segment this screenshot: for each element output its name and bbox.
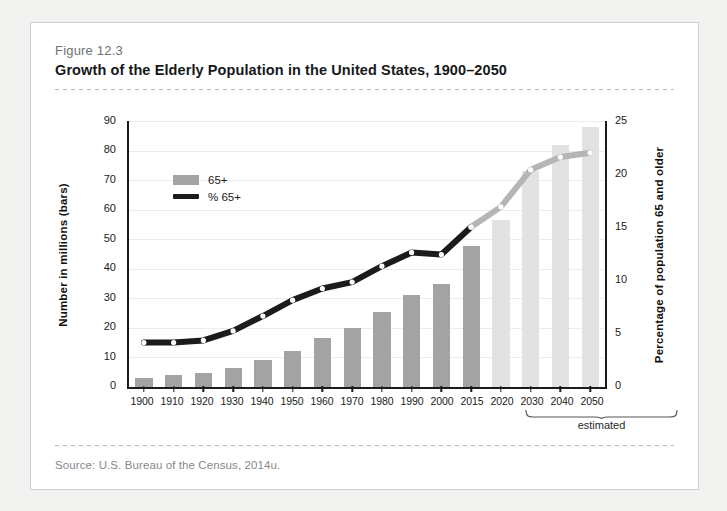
x-tick (381, 386, 382, 392)
x-axis-label: 1920 (187, 395, 217, 407)
y-tick-right: 0 (615, 379, 639, 391)
x-axis-label: 1950 (277, 395, 307, 407)
x-axis-label: 1910 (157, 395, 187, 407)
line-data-point (588, 150, 593, 155)
line-data-point (290, 298, 295, 303)
line-data-point (231, 328, 236, 333)
x-tick (203, 386, 204, 392)
y-tick-right: 15 (615, 220, 639, 232)
legend-line-icon (173, 194, 199, 199)
legend-label-line: % 65+ (208, 191, 241, 203)
x-tick (143, 386, 144, 392)
x-axis-label: 1980 (367, 395, 397, 407)
y-tick-left: 70 (92, 173, 116, 185)
line-data-point (469, 224, 474, 229)
line-series (129, 121, 605, 386)
x-axis-labels: 1900191019201930194019501960197019801990… (127, 395, 607, 407)
y-tick-left: 80 (92, 143, 116, 155)
x-tick (351, 386, 352, 392)
line-segment (144, 227, 471, 343)
line-data-point (201, 338, 206, 343)
x-tick (292, 386, 293, 392)
y-tick-left: 90 (92, 114, 116, 126)
x-axis-label: 1990 (397, 395, 427, 407)
x-tick (441, 386, 442, 392)
x-tick (589, 386, 590, 392)
x-tick (262, 386, 263, 392)
legend-item-bars: 65+ (173, 171, 241, 188)
y-tick-right: 25 (615, 114, 639, 126)
divider-bottom (55, 445, 674, 446)
y-tick-right: 5 (615, 326, 639, 338)
y-tick-left: 10 (92, 350, 116, 362)
figure-source: Source: U.S. Bureau of the Census, 2014u… (55, 459, 280, 471)
y-tick-left: 0 (92, 379, 116, 391)
y-tick-right: 20 (615, 167, 639, 179)
x-tick (232, 386, 233, 392)
x-tick (500, 386, 501, 392)
line-data-point (528, 167, 533, 172)
legend-item-line: % 65+ (173, 188, 241, 205)
legend-swatch-icon (173, 175, 199, 185)
x-tick (322, 386, 323, 392)
plot-region (127, 121, 607, 389)
x-axis-label: 2050 (577, 395, 607, 407)
y-tick-left: 60 (92, 202, 116, 214)
figure-title: Growth of the Elderly Population in the … (55, 62, 507, 78)
x-tick (470, 386, 471, 392)
x-axis-label: 1930 (217, 395, 247, 407)
line-data-point (379, 264, 384, 269)
line-data-point (558, 154, 563, 159)
chart-area: Number in millions (bars) Percentage of … (55, 103, 674, 438)
line-data-point (171, 340, 176, 345)
y-axis-left-title: Number in millions (bars) (55, 121, 71, 389)
line-data-point (260, 313, 265, 318)
x-axis-label: 2030 (517, 395, 547, 407)
x-tick (560, 386, 561, 392)
x-tick (411, 386, 412, 392)
line-data-point (409, 250, 414, 255)
x-axis-label: 1970 (337, 395, 367, 407)
line-data-point (498, 204, 503, 209)
x-tick (530, 386, 531, 392)
screenshot-page: Figure 12.3 Growth of the Elderly Popula… (0, 0, 727, 511)
x-axis-label: 2015 (457, 395, 487, 407)
line-segment (471, 153, 590, 227)
y-axis-right-title: Percentage of population 65 and older (651, 121, 667, 389)
x-axis-label: 1940 (247, 395, 277, 407)
y-tick-right: 10 (615, 273, 639, 285)
line-data-point (141, 340, 146, 345)
y-tick-left: 30 (92, 291, 116, 303)
y-tick-left: 40 (92, 261, 116, 273)
estimated-bracket-icon (525, 409, 678, 419)
x-axis-label: 1900 (127, 395, 157, 407)
chart-legend: 65+ % 65+ (173, 171, 241, 205)
divider-top (55, 89, 674, 90)
x-tick (173, 386, 174, 392)
x-axis-label: 2020 (487, 395, 517, 407)
y-tick-left: 50 (92, 232, 116, 244)
x-axis-label: 2000 (427, 395, 457, 407)
figure-card: Figure 12.3 Growth of the Elderly Popula… (30, 22, 699, 490)
legend-label-bars: 65+ (208, 174, 228, 186)
estimated-label: estimated (525, 419, 678, 431)
x-axis-label: 1960 (307, 395, 337, 407)
line-data-point (320, 286, 325, 291)
figure-number: Figure 12.3 (55, 43, 123, 58)
y-tick-left: 20 (92, 320, 116, 332)
x-axis-label: 2040 (547, 395, 577, 407)
line-data-point (350, 280, 355, 285)
line-data-point (439, 252, 444, 257)
